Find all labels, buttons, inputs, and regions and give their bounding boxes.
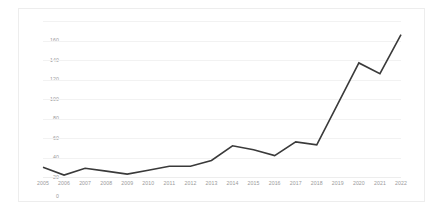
x-axis-tick-label: 2022 bbox=[395, 181, 407, 186]
x-axis-tick-label: 2019 bbox=[332, 181, 344, 186]
x-axis-tick-label: 2018 bbox=[311, 181, 323, 186]
x-axis-tick-label: 2006 bbox=[58, 181, 70, 186]
gridline bbox=[43, 177, 401, 178]
x-axis-tick-label: 2021 bbox=[374, 181, 386, 186]
x-axis-tick-label: 2017 bbox=[290, 181, 302, 186]
x-axis-tick-label: 2005 bbox=[37, 181, 49, 186]
x-axis-tick-label: 2008 bbox=[100, 181, 112, 186]
x-axis-tick-label: 2015 bbox=[248, 181, 260, 186]
x-axis-tick-labels: 2005200620072008200920102011201220132014… bbox=[43, 181, 401, 195]
plot-area bbox=[43, 21, 401, 177]
x-axis-tick-label: 2020 bbox=[353, 181, 365, 186]
series-polyline bbox=[43, 35, 401, 175]
x-axis-tick-label: 2012 bbox=[184, 181, 196, 186]
x-axis-tick-label: 2007 bbox=[79, 181, 91, 186]
line-series bbox=[43, 21, 401, 177]
x-axis-tick-label: 2011 bbox=[164, 181, 176, 186]
x-axis-tick-label: 2010 bbox=[142, 181, 154, 186]
x-axis-tick-label: 2016 bbox=[269, 181, 281, 186]
x-axis-tick-label: 2014 bbox=[227, 181, 239, 186]
y-axis-tick-label: 0 bbox=[29, 194, 59, 199]
chart-frame: 020406080100120140160 200520062007200820… bbox=[18, 8, 425, 202]
x-axis-tick-label: 2009 bbox=[121, 181, 133, 186]
x-axis-tick-label: 2013 bbox=[205, 181, 217, 186]
